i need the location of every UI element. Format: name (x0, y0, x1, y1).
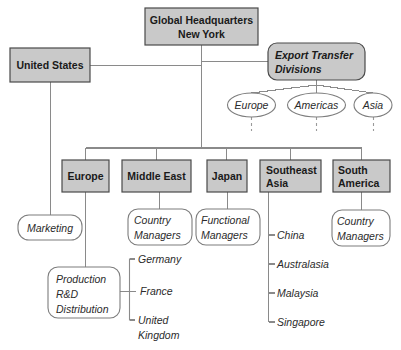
node-etd-americas-label: Americas (294, 99, 340, 111)
node-france-label: France (140, 285, 173, 297)
node-marketing[interactable]: Marketing (18, 215, 82, 240)
node-production-rd-distribution[interactable]: Production R&D Distribution (48, 267, 120, 318)
node-jp-functional-managers-line1: Functional (201, 214, 250, 226)
node-france[interactable]: France (140, 285, 173, 297)
node-etd-europe-label: Europe (235, 99, 269, 111)
node-australasia-label: Australasia (276, 258, 329, 270)
node-global-headquarters-label-line1: Global Headquarters (150, 14, 253, 26)
node-global-headquarters[interactable]: Global Headquarters New York (145, 8, 258, 45)
bracket-production-countries (130, 259, 136, 320)
node-export-transfer-divisions-label-line2: Divisions (275, 63, 322, 75)
node-etd-europe[interactable]: Europe (228, 93, 276, 117)
node-europe-label: Europe (67, 170, 103, 182)
node-south-america[interactable]: South America (333, 160, 390, 192)
node-production-label-line2: R&D (56, 288, 79, 300)
node-singapore[interactable]: Singapore (277, 316, 325, 328)
node-me-country-managers-line1: Country (134, 214, 172, 226)
node-middle-east[interactable]: Middle East (122, 160, 191, 192)
node-south-america-country-managers[interactable]: Country Managers (332, 210, 390, 246)
node-export-transfer-divisions-label-line1: Export Transfer (275, 49, 354, 61)
node-japan-functional-managers[interactable]: Functional Managers (196, 209, 260, 245)
node-middle-east-label: Middle East (127, 170, 186, 182)
node-malaysia[interactable]: Malaysia (277, 287, 319, 299)
node-production-label-line1: Production (56, 273, 106, 285)
node-global-headquarters-label-line2: New York (178, 28, 225, 40)
node-marketing-label: Marketing (27, 222, 73, 234)
node-south-america-label-line2: America (338, 177, 380, 189)
org-chart-canvas: Global Headquarters New York United Stat… (0, 0, 401, 350)
node-china[interactable]: China (277, 229, 305, 241)
node-united-states[interactable]: United States (10, 48, 90, 82)
node-etd-americas[interactable]: Americas (288, 93, 346, 117)
node-united-kingdom-label-line1: United (138, 314, 170, 326)
node-etd-asia[interactable]: Asia (354, 93, 392, 117)
node-china-label: China (277, 229, 305, 241)
node-sa-country-managers-line2: Managers (337, 230, 384, 242)
node-europe[interactable]: Europe (62, 160, 109, 192)
node-southeast-asia[interactable]: Southeast Asia (260, 160, 321, 192)
node-united-kingdom[interactable]: United Kingdom (138, 314, 180, 341)
org-chart-diagram: Global Headquarters New York United Stat… (0, 0, 401, 350)
node-middle-east-country-managers[interactable]: Country Managers (128, 209, 192, 245)
node-japan-label: Japan (212, 170, 242, 182)
node-united-kingdom-label-line2: Kingdom (138, 329, 180, 341)
node-southeast-asia-label-line2: Asia (266, 177, 288, 189)
node-sa-country-managers-line1: Country (337, 215, 375, 227)
connector-etd-to-europe (251, 85, 317, 93)
node-singapore-label: Singapore (277, 316, 325, 328)
node-export-transfer-divisions[interactable]: Export Transfer Divisions (268, 43, 365, 80)
node-jp-functional-managers-line2: Managers (201, 229, 248, 241)
node-united-states-label: United States (16, 59, 83, 71)
node-south-america-label-line1: South (338, 164, 368, 176)
node-japan[interactable]: Japan (207, 160, 247, 192)
node-germany-label: Germany (138, 253, 182, 265)
node-australasia[interactable]: Australasia (276, 258, 329, 270)
node-production-label-line3: Distribution (56, 303, 109, 315)
node-etd-asia-label: Asia (362, 99, 384, 111)
node-me-country-managers-line2: Managers (134, 229, 181, 241)
node-germany[interactable]: Germany (138, 253, 182, 265)
node-malaysia-label: Malaysia (277, 287, 319, 299)
connector-etd-to-asia (317, 85, 374, 93)
node-southeast-asia-label-line1: Southeast (266, 164, 317, 176)
